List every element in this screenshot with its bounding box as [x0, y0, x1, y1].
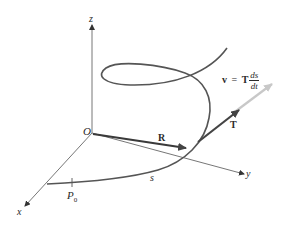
x-axis — [25, 133, 92, 206]
start-point-subscript: 0 — [74, 196, 78, 204]
arc-length-label: s — [150, 173, 154, 183]
x-axis-label: x — [17, 207, 21, 217]
z-axis-label: z — [89, 14, 93, 24]
ds-dt-fraction: dsdt — [249, 70, 259, 91]
y-axis-label: y — [246, 169, 250, 179]
velocity-v: v — [222, 74, 227, 85]
equals-sign: = — [232, 74, 238, 85]
velocity-equation: v = Tdsdt — [222, 70, 259, 91]
space-curve-diagram — [0, 0, 284, 229]
y-axis — [92, 133, 244, 174]
velocity-T: T — [242, 74, 249, 85]
tangent-vector-label: T — [230, 120, 237, 130]
start-point-label: P0 — [67, 190, 77, 204]
fraction-numerator: ds — [249, 70, 259, 81]
fraction-denominator: dt — [251, 81, 258, 91]
origin-label: O — [83, 126, 91, 137]
space-curve — [47, 48, 227, 184]
start-point-P: P — [67, 189, 74, 201]
position-vector-label: R — [158, 133, 165, 143]
